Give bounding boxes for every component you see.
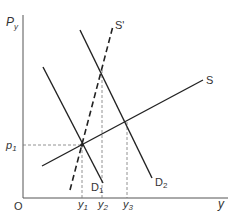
supply-demand-diagram: Py O y p1 y1 y2 y3 S S' D1 D2: [0, 0, 237, 216]
guide-lines: [23, 70, 127, 198]
curves: [42, 26, 203, 190]
supply-curve-s: [42, 80, 203, 166]
y1-label: y1: [77, 198, 88, 212]
demand-curve-d1: [43, 67, 103, 183]
y3-label: y3: [122, 198, 134, 212]
demand-curve-d2: [80, 30, 152, 178]
p1-label: p1: [5, 139, 17, 153]
s-prime-label: S': [115, 19, 124, 31]
y-axis-label: Py: [6, 15, 19, 31]
y2-label: y2: [97, 198, 109, 212]
d1-label: D1: [91, 181, 104, 195]
equilibrium-point: [80, 143, 84, 147]
s-label: S: [206, 74, 213, 86]
x-axis-label: y: [217, 197, 225, 211]
axes: [23, 15, 228, 198]
d2-label: D2: [155, 176, 168, 190]
origin-label: O: [14, 200, 23, 212]
supply-curve-s-prime: [70, 26, 113, 190]
